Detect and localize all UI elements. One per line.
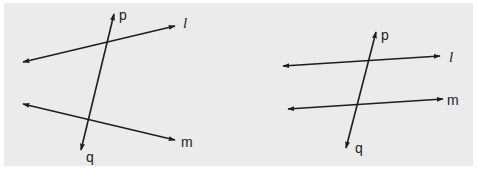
right-label-m: m <box>447 92 459 108</box>
right-label-l: l <box>449 49 453 65</box>
left-panel: l m p q <box>23 7 193 165</box>
left-label-l: l <box>183 15 187 31</box>
right-label-q: q <box>355 140 363 156</box>
left-label-m: m <box>181 134 193 150</box>
right-label-p: p <box>381 27 389 43</box>
diagram-canvas: l m p q l m p q <box>0 0 478 174</box>
right-line-l <box>283 56 440 66</box>
left-line-m <box>23 104 175 140</box>
left-label-q: q <box>86 149 94 165</box>
lines-diagram: l m p q l m p q <box>0 0 478 174</box>
right-panel: l m p q <box>283 27 459 156</box>
left-label-p: p <box>119 7 127 23</box>
right-line-m <box>288 99 443 109</box>
left-transversal-pq <box>81 14 114 150</box>
right-transversal-pq <box>346 32 376 148</box>
left-line-l <box>23 26 175 62</box>
